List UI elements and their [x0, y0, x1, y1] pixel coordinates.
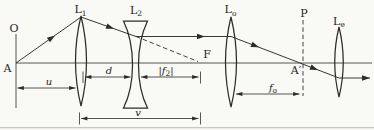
label-focal-point: F — [203, 48, 211, 61]
label-image-point: A′ — [290, 64, 302, 77]
lens-ray-diagram-figure: O A L1 L2 F Lo P A′ Le u d |f2| v fo — [0, 0, 374, 130]
label-f2-close-bar: | — [170, 65, 173, 77]
paper-background — [0, 0, 374, 130]
label-objective-sub: o — [232, 9, 237, 18]
label-lens-L2-sub: 2 — [137, 9, 142, 18]
label-eyepiece-sub: e — [340, 20, 345, 29]
label-dimension-d: d — [106, 65, 112, 76]
label-fo-sub: o — [273, 86, 278, 95]
label-focal-plane: P — [300, 7, 308, 20]
label-dimension-v: v — [135, 107, 141, 118]
label-lens-L1-sub: 1 — [82, 9, 87, 18]
label-object-point: A — [3, 62, 13, 75]
label-object-top: O — [9, 22, 18, 35]
lens-ray-diagram: O A L1 L2 F Lo P A′ Le u d |f2| v fo — [0, 0, 374, 130]
label-dimension-u: u — [46, 76, 52, 87]
